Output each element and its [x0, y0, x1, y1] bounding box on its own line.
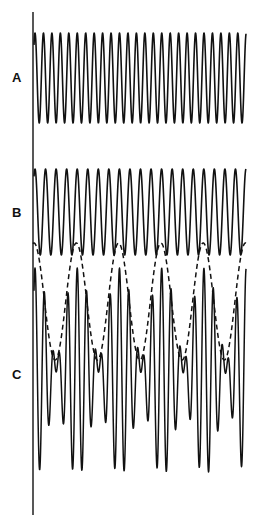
panel-label-c: C	[12, 368, 21, 381]
panel-label-b: B	[12, 206, 21, 219]
wave-c-sum	[34, 268, 246, 472]
beat-waveform-figure	[0, 0, 259, 524]
wave-a	[34, 33, 246, 123]
panel-label-a: A	[12, 71, 21, 84]
wave-b	[34, 169, 246, 255]
